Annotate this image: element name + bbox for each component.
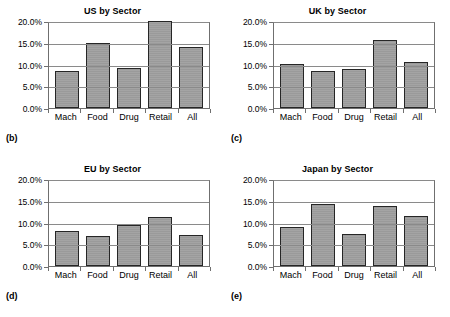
x-axis-tick-label: All xyxy=(402,270,432,280)
x-axis-tick-label: Mach xyxy=(51,270,81,280)
plot-area xyxy=(48,180,210,267)
chart-panel-us: US by Sector 0.0%5.0%10.0%15.0%20.0% Mac… xyxy=(0,0,225,158)
y-axis-labels: 0.0%5.0%10.0%15.0%20.0% xyxy=(225,22,269,109)
x-axis-labels: MachFoodDrugRetailAll xyxy=(48,270,210,280)
bar xyxy=(55,231,79,266)
plot-area xyxy=(48,22,210,109)
gridline xyxy=(274,245,434,246)
x-axis-tick-label: Food xyxy=(307,270,337,280)
y-axis-tick-label: 5.0% xyxy=(248,83,267,92)
chart-title: EU by Sector xyxy=(0,164,225,174)
chart-panel-uk: UK by Sector 0.0%5.0%10.0%15.0%20.0% Mac… xyxy=(225,0,450,158)
x-axis-tick xyxy=(435,267,436,271)
x-axis-labels: MachFoodDrugRetailAll xyxy=(273,270,435,280)
y-axis-tick-label: 10.0% xyxy=(18,219,42,228)
x-axis-tick-label: Mach xyxy=(276,270,306,280)
bar xyxy=(86,43,110,108)
y-axis-labels: 0.0%5.0%10.0%15.0%20.0% xyxy=(0,180,44,267)
y-axis-tick-label: 0.0% xyxy=(23,263,42,272)
bar xyxy=(55,71,79,108)
gridline xyxy=(49,245,209,246)
x-axis-tick-label: Retail xyxy=(371,270,401,280)
x-axis-tick-label: Food xyxy=(307,112,337,122)
x-axis-labels: MachFoodDrugRetailAll xyxy=(273,112,435,122)
x-axis-tick-label: Retail xyxy=(371,112,401,122)
y-axis-tick-label: 10.0% xyxy=(243,219,267,228)
panel-label: (e) xyxy=(231,291,242,301)
bar xyxy=(311,71,335,108)
plot-area xyxy=(273,22,435,109)
bar xyxy=(373,40,397,108)
x-axis-tick-label: All xyxy=(177,270,207,280)
chart-panel-japan: Japan by Sector 0.0%5.0%10.0%15.0%20.0% … xyxy=(225,158,450,316)
bar xyxy=(179,47,203,108)
x-axis-tick-label: Retail xyxy=(146,270,176,280)
x-axis-tick xyxy=(210,109,211,113)
y-axis-tick-label: 20.0% xyxy=(18,176,42,185)
bar xyxy=(179,235,203,266)
plot-area xyxy=(273,180,435,267)
bar xyxy=(148,217,172,266)
x-axis-tick xyxy=(210,267,211,271)
y-axis-tick-label: 5.0% xyxy=(248,241,267,250)
gridline xyxy=(274,224,434,225)
bar xyxy=(86,236,110,266)
bar xyxy=(342,234,366,266)
x-axis-tick-label: Food xyxy=(82,112,112,122)
x-axis-tick-label: Drug xyxy=(114,270,144,280)
y-axis-tick-label: 10.0% xyxy=(18,61,42,70)
panel-label: (d) xyxy=(6,291,18,301)
y-axis-tick-label: 15.0% xyxy=(243,197,267,206)
chart-title: Japan by Sector xyxy=(225,164,450,174)
x-axis-tick-label: Drug xyxy=(114,112,144,122)
bar xyxy=(404,62,428,108)
bar xyxy=(342,69,366,108)
x-axis-tick-label: Mach xyxy=(51,112,81,122)
gridline xyxy=(49,87,209,88)
y-axis-tick-label: 15.0% xyxy=(243,39,267,48)
x-axis-labels: MachFoodDrugRetailAll xyxy=(48,112,210,122)
y-axis-tick-label: 20.0% xyxy=(243,176,267,185)
y-axis-tick-label: 15.0% xyxy=(18,197,42,206)
gridline xyxy=(49,44,209,45)
x-axis-tick-label: Retail xyxy=(146,112,176,122)
figure-sheet: US by Sector 0.0%5.0%10.0%15.0%20.0% Mac… xyxy=(0,0,450,317)
y-axis-tick-label: 0.0% xyxy=(248,263,267,272)
gridline xyxy=(274,202,434,203)
x-axis-tick-label: Drug xyxy=(339,270,369,280)
y-axis-labels: 0.0%5.0%10.0%15.0%20.0% xyxy=(0,22,44,109)
x-axis-tick-label: All xyxy=(177,112,207,122)
x-axis-tick-label: Mach xyxy=(276,112,306,122)
bar xyxy=(373,206,397,266)
y-axis-tick-label: 5.0% xyxy=(23,241,42,250)
gridline xyxy=(274,87,434,88)
chart-title: US by Sector xyxy=(0,6,225,16)
gridline xyxy=(49,202,209,203)
gridline xyxy=(274,66,434,67)
y-axis-tick-label: 10.0% xyxy=(243,61,267,70)
gridline xyxy=(49,66,209,67)
panel-label: (b) xyxy=(6,133,18,143)
x-axis-tick-label: Food xyxy=(82,270,112,280)
gridline xyxy=(49,224,209,225)
y-axis-tick-label: 15.0% xyxy=(18,39,42,48)
panel-label: (c) xyxy=(231,133,242,143)
y-axis-labels: 0.0%5.0%10.0%15.0%20.0% xyxy=(225,180,269,267)
bar xyxy=(148,21,172,108)
y-axis-tick-label: 5.0% xyxy=(23,83,42,92)
bar xyxy=(311,204,335,266)
bar xyxy=(280,64,304,108)
y-axis-tick-label: 20.0% xyxy=(243,18,267,27)
chart-panel-eu: EU by Sector 0.0%5.0%10.0%15.0%20.0% Mac… xyxy=(0,158,225,316)
x-axis-tick-label: Drug xyxy=(339,112,369,122)
x-axis-tick-label: All xyxy=(402,112,432,122)
y-axis-tick-label: 20.0% xyxy=(18,18,42,27)
bar xyxy=(280,227,304,266)
y-axis-tick-label: 0.0% xyxy=(248,105,267,114)
gridline xyxy=(274,44,434,45)
y-axis-tick-label: 0.0% xyxy=(23,105,42,114)
chart-title: UK by Sector xyxy=(225,6,450,16)
x-axis-tick xyxy=(435,109,436,113)
